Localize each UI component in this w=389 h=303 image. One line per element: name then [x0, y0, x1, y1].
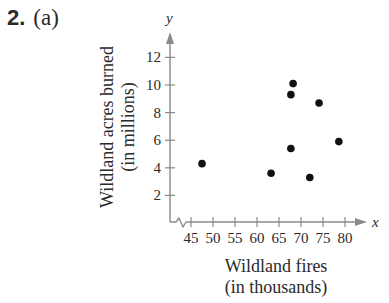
- y-tick-label: 6: [154, 132, 162, 148]
- data-point: [267, 170, 275, 178]
- data-point: [287, 91, 295, 99]
- x-tick-label: 70: [294, 230, 309, 246]
- y-tick-label: 10: [146, 77, 161, 93]
- axes: [166, 32, 367, 227]
- y-axis-label-line-1: Wildland acres burned: [97, 27, 118, 227]
- x-axis-name: x: [371, 214, 379, 230]
- data-point: [289, 80, 297, 88]
- y-axis-name: y: [164, 10, 173, 26]
- x-tick-label: 80: [338, 230, 353, 246]
- data-point: [315, 99, 323, 107]
- y-tick-label: 4: [154, 160, 162, 176]
- x-axis-label: Wildland fires (in thousands): [225, 256, 328, 298]
- data-point: [198, 160, 206, 168]
- data-point: [306, 174, 314, 182]
- x-tick-label: 55: [228, 230, 243, 246]
- x-axis-arrow-icon: [355, 218, 367, 226]
- x-axis-label-line-2: (in thousands): [225, 277, 328, 298]
- x-tick-label: 65: [272, 230, 287, 246]
- y-axis-arrow-icon: [166, 32, 174, 44]
- ticks: 246810124550556065707580: [146, 49, 353, 246]
- x-axis-line: [170, 218, 360, 227]
- y-tick-label: 8: [154, 105, 162, 121]
- data-point: [335, 138, 343, 146]
- x-axis-label-line-1: Wildland fires: [225, 256, 328, 277]
- scatter-plot: 246810124550556065707580 x y: [0, 0, 389, 303]
- data-points: [198, 80, 342, 181]
- y-axis-label-line-2: (in millions): [118, 27, 139, 227]
- y-tick-label: 12: [146, 49, 161, 65]
- y-tick-label: 2: [154, 187, 162, 203]
- x-tick-label: 75: [316, 230, 331, 246]
- y-axis-label: Wildland acres burned (in millions): [97, 27, 139, 227]
- x-tick-label: 50: [206, 230, 221, 246]
- x-tick-label: 60: [250, 230, 265, 246]
- x-tick-label: 45: [184, 230, 199, 246]
- data-point: [287, 145, 295, 153]
